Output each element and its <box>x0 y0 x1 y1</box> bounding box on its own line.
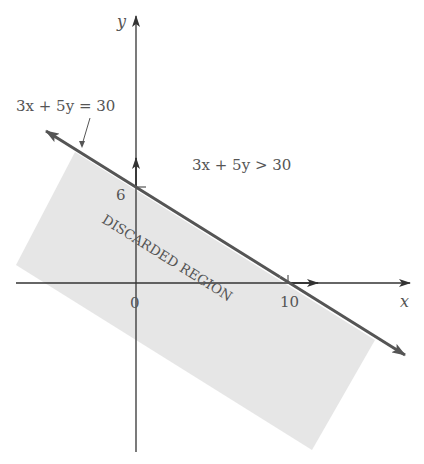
equation-label: 3x + 5y = 30 <box>16 97 115 115</box>
y-axis-label: y <box>116 12 127 31</box>
inequality-diagram: y x 0 6 10 3x + 5y = 30 3x + 5y > 30 DIS… <box>0 0 424 464</box>
label-pointer-head <box>79 141 85 148</box>
label-pointer <box>82 118 90 145</box>
x-intercept-label: 10 <box>280 293 299 311</box>
x-axis-label: x <box>400 292 409 311</box>
y-intercept-label: 6 <box>116 186 126 204</box>
origin-label: 0 <box>130 294 140 312</box>
inequality-label: 3x + 5y > 30 <box>192 156 291 174</box>
